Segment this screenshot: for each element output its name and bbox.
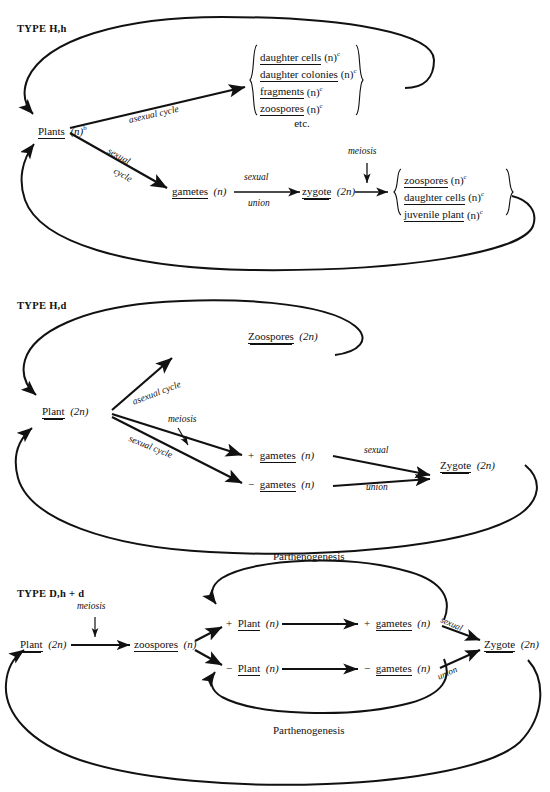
label-union-d2: union	[366, 483, 388, 493]
label-sexual-union-top-d1: sexual	[244, 173, 268, 183]
node-zoospores-ploidy: (n)	[184, 638, 197, 650]
node-plants: Plants (n)b	[38, 125, 87, 137]
node-zygote-ploidy: (2n)	[337, 185, 355, 197]
sign: +	[226, 617, 232, 629]
node-zygote-ploidy: (2n)	[477, 459, 495, 471]
node-zygote-d3: Zygote (2n)	[484, 639, 539, 650]
node-zoospores-ploidy: (2n)	[299, 330, 317, 342]
node-gametes-d1: gametes (n)	[172, 186, 226, 197]
d3-parthenogenesis-top-loop	[212, 561, 447, 620]
sign: +	[248, 449, 254, 461]
node-zygote-ploidy: (2n)	[521, 638, 539, 650]
item-sup: c	[320, 102, 323, 109]
item-sup: c	[337, 50, 340, 57]
node-plants-name: Plants	[38, 125, 65, 139]
node-plus-gametes-d3: + gametes (n)	[364, 618, 430, 629]
node-name: Plant	[238, 617, 261, 631]
node-zoospores-d2: Zoospores (2n)	[248, 331, 318, 342]
d2-plus-to-zygote-arrow	[333, 456, 430, 475]
list-item: zoospores (n)c	[404, 170, 484, 187]
node-plant-name: Plant	[42, 405, 65, 419]
d3-minus-gametes-to-zygote-arrow	[440, 650, 480, 668]
node-zygote-name: zygote	[302, 185, 331, 199]
item-sup: c	[464, 173, 467, 180]
label-parthenogenesis-top: Parthenogenesis	[273, 551, 344, 562]
d1-asexual-loop	[25, 17, 434, 114]
meiotic-products-left-brace	[392, 168, 402, 216]
item-sup: c	[353, 67, 356, 74]
item-name: zoospores	[404, 174, 448, 188]
node-gametes-name: gametes	[172, 185, 208, 199]
asexual-products-left-brace	[248, 44, 258, 116]
node-plus-gametes-d2: + gametes (n)	[248, 450, 314, 461]
life-cycle-figure: TYPE H,h Plants (n)b asexual cycle sexua…	[0, 0, 550, 792]
node-zoospores-d3: zoospores (n)	[134, 639, 196, 650]
node-name: Plant	[238, 662, 261, 676]
node-name: gametes	[376, 617, 412, 631]
item-name: fragments	[260, 85, 304, 99]
meiotic-products-right-brace	[505, 168, 515, 216]
node-plant-d2: Plant (2n)	[42, 406, 88, 417]
list-item: zoospores (n)c	[260, 99, 357, 116]
item-name: daughter colonies	[260, 68, 338, 82]
node-ploidy: (n)	[301, 478, 314, 490]
item-ploidy: (n)	[467, 208, 480, 220]
node-zygote-d1: zygote (2n)	[302, 186, 355, 197]
item-ploidy: (n)	[324, 51, 337, 63]
node-name: gametes	[376, 662, 412, 676]
d3-zoospores-to-minus-plant-arrow	[195, 650, 222, 665]
node-zygote-d2: Zygote (2n)	[440, 460, 495, 471]
node-ploidy: (n)	[266, 662, 279, 674]
node-zygote-name: Zygote	[440, 459, 471, 473]
item-sup: c	[320, 85, 323, 92]
node-name: gametes	[260, 449, 296, 463]
node-zygote-name: Zygote	[484, 638, 515, 652]
item-sup: c	[480, 208, 483, 215]
node-zoospores-name: zoospores	[134, 638, 178, 652]
label-meiosis-d1: meiosis	[348, 147, 377, 157]
label-sexual-union-bottom-d1: union	[248, 199, 270, 209]
item-name: zoospores	[260, 102, 304, 116]
list-item: juvenile plant (n)c	[404, 205, 484, 222]
sign: −	[226, 662, 232, 674]
item-ploidy: (n)	[341, 68, 354, 80]
node-ploidy: (n)	[301, 449, 314, 461]
node-plant-name: Plant	[20, 638, 43, 652]
item-name: etc.	[294, 117, 310, 129]
asexual-products-list: daughter cells (n)c daughter colonies (n…	[260, 47, 357, 131]
item-ploidy: (n)	[451, 174, 464, 186]
sign: −	[248, 478, 254, 490]
node-ploidy: (n)	[417, 617, 430, 629]
node-plant-ploidy: (2n)	[48, 638, 66, 650]
list-item: fragments (n)c	[260, 82, 357, 99]
node-plant-d3: Plant (2n)	[20, 639, 66, 650]
node-plant-ploidy: (2n)	[70, 405, 88, 417]
label-meiosis-d3: meiosis	[77, 602, 106, 612]
node-minus-gametes-d3: − gametes (n)	[364, 663, 430, 674]
item-ploidy: (n)	[307, 102, 320, 114]
node-minus-gametes-d2: − gametes (n)	[248, 479, 314, 490]
label-meiosis-d2: meiosis	[168, 415, 197, 425]
item-name: daughter cells	[404, 191, 465, 205]
list-item: daughter colonies (n)c	[260, 64, 357, 81]
item-sup: c	[481, 190, 484, 197]
list-item: daughter cells (n)c	[404, 187, 484, 204]
node-ploidy: (n)	[417, 662, 430, 674]
item-ploidy: (n)	[468, 191, 481, 203]
d2-asexual-loop	[24, 300, 363, 395]
node-name: gametes	[260, 478, 296, 492]
label-sexual-d2: sexual	[364, 446, 388, 456]
meiotic-products-list: zoospores (n)c daughter cells (n)c juven…	[404, 170, 484, 222]
item-name: daughter cells	[260, 51, 321, 65]
type-label-h-h: TYPE H,h	[17, 24, 67, 35]
node-plants-superscript: b	[83, 124, 86, 131]
d3-zoospores-to-plus-plant-arrow	[195, 627, 222, 641]
node-plus-plant-d3: + Plant (n)	[226, 618, 279, 629]
type-label-d-h-plus-d: TYPE D,h + d	[17, 589, 84, 600]
list-item: daughter cells (n)c	[260, 47, 357, 64]
node-ploidy: (n)	[266, 617, 279, 629]
node-plants-ploidy: (n)	[70, 125, 83, 137]
list-item: etc.	[260, 116, 344, 131]
item-name: juvenile plant	[404, 208, 464, 222]
sign: +	[364, 617, 370, 629]
